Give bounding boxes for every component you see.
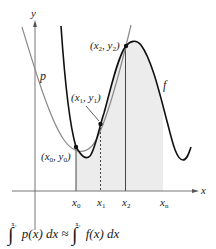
tick-x1: x1 xyxy=(97,197,105,210)
upper-limit-left: x₂ xyxy=(11,221,16,227)
rhs-expression: f(x) dx xyxy=(86,226,120,241)
lhs-expression: p(x) dx xyxy=(22,226,58,241)
tick-x0: x0 xyxy=(72,197,80,210)
f-curve-label: f xyxy=(163,79,166,91)
upper-limit-right: x₂ xyxy=(75,221,80,227)
label-x2-y2: (x2, y2) xyxy=(90,40,120,53)
p-curve-label: p xyxy=(40,70,46,82)
interpolation-diagram xyxy=(0,0,216,249)
x-axis-arrow-icon xyxy=(192,189,199,193)
label-x0-y0: (x0, y0) xyxy=(41,151,71,164)
y-axis-label: y xyxy=(31,8,36,19)
label-x1-y1: (x1, y1) xyxy=(71,92,101,105)
y-axis-arrow-icon xyxy=(33,20,37,27)
x1-leader-line xyxy=(86,106,99,121)
tick-xn: xn xyxy=(160,197,168,210)
x-axis-label: x xyxy=(201,185,206,196)
integral-approximation-formula: ∫x₂ p(x) dx ≈ ∫x₂ f(x) dx xyxy=(8,220,119,243)
point-x1-y1 xyxy=(98,122,102,126)
point-x2-y2 xyxy=(124,44,128,48)
approx-symbol: ≈ xyxy=(62,226,69,241)
tick-x2: x2 xyxy=(122,197,130,210)
point-x0-y0 xyxy=(74,145,78,149)
